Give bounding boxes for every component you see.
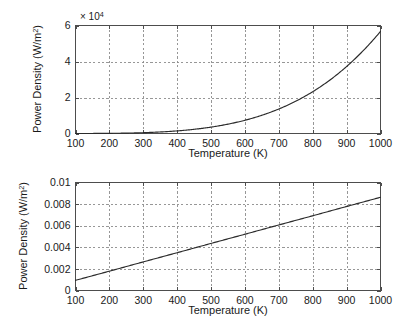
top-y-axis-label: Power Density (W/m2) [31,25,44,133]
y-tick-label: 0.004 [44,241,70,253]
blackbody-power-density-figure: 1002003004005006007008009001000 0246 × 1… [0,0,411,330]
y-tick-label: 0 [65,284,71,296]
top-plot-svg: 1002003004005006007008009001000 0246 × 1… [0,0,411,168]
y-tick-label: 4 [65,55,71,67]
x-tick-label: 300 [135,137,153,149]
y-tick-label: 6 [65,19,71,31]
x-tick-label: 700 [270,294,288,306]
y-tick-label: 0 [65,127,71,139]
chart-panel-top: 1002003004005006007008009001000 0246 × 1… [0,0,411,168]
x-tick-label: 1000 [369,137,393,149]
y-tick-label: 0.006 [44,219,70,231]
x-tick-label: 700 [270,137,288,149]
bottom-x-axis-label: Temperature (K) [188,304,267,316]
x-tick-label: 400 [168,137,186,149]
y-tick-label: 0.01 [50,176,71,188]
top-y-tick-labels: 0246 [65,19,71,139]
top-gridlines [76,26,381,134]
bottom-data-curve [76,197,381,280]
top-tickmarks [76,26,382,135]
x-tick-label: 200 [101,294,119,306]
bottom-axes-box [76,183,381,291]
x-tick-label: 200 [101,137,119,149]
y-tick-label: 0.002 [44,263,70,275]
x-tick-label: 1000 [369,294,393,306]
x-tick-label: 900 [338,294,356,306]
y-tick-label: 2 [65,91,71,103]
x-tick-label: 400 [168,294,186,306]
bottom-plot-svg: 1002003004005006007008009001000 00.0020.… [0,162,411,330]
bottom-tickmarks [76,183,382,292]
top-y-exponent-label: × 104 [80,10,104,23]
x-tick-label: 800 [304,294,322,306]
chart-panel-bottom: 1002003004005006007008009001000 00.0020.… [0,162,411,330]
bottom-y-axis-label: Power Density (W/m2) [17,182,30,290]
bottom-y-tick-labels: 00.0020.0040.0060.0080.01 [44,176,70,296]
top-axes-box [76,26,381,134]
x-tick-label: 800 [304,137,322,149]
x-tick-label: 900 [338,137,356,149]
y-tick-label: 0.008 [44,198,70,210]
top-data-curve [76,31,381,133]
bottom-gridlines [76,183,381,291]
x-tick-label: 300 [135,294,153,306]
top-x-axis-label: Temperature (K) [188,147,267,159]
